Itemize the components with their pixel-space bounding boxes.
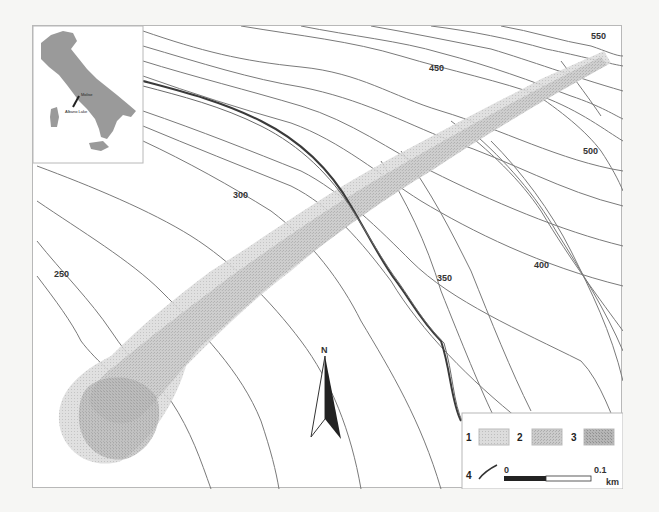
contour-label-450: 450	[429, 63, 444, 73]
contour-label-250: 250	[54, 269, 69, 279]
contour-label-350: 350	[437, 273, 452, 283]
contour-label-400: 400	[534, 260, 549, 270]
inset-lake-label: Albano Lake	[65, 109, 88, 114]
north-label: N	[321, 345, 328, 355]
inset-map: Molise Albano Lake	[33, 26, 143, 163]
scale-start: 0	[504, 465, 509, 475]
zone-2	[90, 57, 607, 423]
north-arrow-left-icon	[311, 356, 325, 437]
scale-unit: km	[606, 477, 619, 487]
scale-end: 0.1	[594, 465, 607, 475]
legend-num-2: 2	[517, 432, 523, 443]
contour-label-300: 300	[233, 190, 248, 200]
legend-num-4: 4	[466, 470, 472, 481]
legend-swatch-3	[584, 429, 614, 445]
scale-bar-dark	[504, 476, 546, 481]
zone-3	[79, 377, 159, 459]
topographic-map: 550 450 500 300 350 400 250 Molise Alban…	[32, 25, 622, 488]
inset-site-label: Molise	[81, 92, 93, 97]
north-arrow: N	[311, 345, 341, 439]
legend: 1 2 3 4 0 0.1 km	[462, 413, 623, 489]
contour-label-500: 500	[583, 146, 598, 156]
north-arrow-right-icon	[325, 356, 341, 439]
map-canvas: 550 450 500 300 350 400 250 Molise Alban…	[33, 26, 623, 489]
legend-swatch-1	[479, 429, 509, 445]
scale-bar-light	[546, 476, 591, 481]
legend-num-1: 1	[466, 432, 472, 443]
contour-label-550: 550	[591, 31, 606, 41]
legend-num-3: 3	[571, 432, 577, 443]
legend-swatch-2	[532, 429, 562, 445]
